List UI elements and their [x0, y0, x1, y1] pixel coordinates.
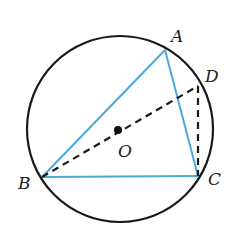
- segment-bc: [42, 176, 198, 177]
- center-point-o: [114, 126, 122, 134]
- label-o: O: [118, 141, 132, 161]
- label-b: B: [17, 173, 31, 193]
- label-c: C: [208, 169, 221, 189]
- label-a: A: [169, 26, 183, 46]
- segment-ab: [42, 50, 165, 177]
- segment-ca: [165, 50, 198, 176]
- geometry-diagram: A D O B C: [0, 0, 242, 243]
- label-d: D: [204, 66, 219, 86]
